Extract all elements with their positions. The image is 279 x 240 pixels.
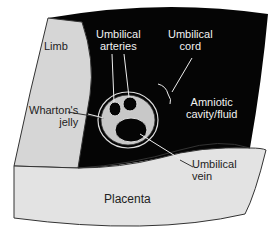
label-umbilical-cord: Umbilical cord xyxy=(168,28,213,52)
label-placenta: Placenta xyxy=(104,193,151,205)
label-whartons-jelly: Wharton's jelly xyxy=(29,104,78,128)
label-limb: Limb xyxy=(44,40,68,52)
umbilical-artery-right xyxy=(123,97,137,111)
label-umbilical-vein: Umbilical vein xyxy=(192,158,237,182)
label-umbilical-arteries: Umbilical arteries xyxy=(96,28,141,52)
umbilical-vein xyxy=(115,118,147,142)
label-amniotic-cavity: Amniotic cavity/fluid xyxy=(186,96,237,120)
umbilical-artery-left xyxy=(109,102,121,116)
